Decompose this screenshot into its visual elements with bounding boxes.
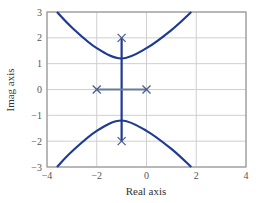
x-tick: −2 [91,170,102,181]
y-axis-label: Imag axis [4,68,16,111]
x-tick: 2 [194,170,199,181]
x-tick-labels: −4−2024 [42,170,249,181]
y-tick: 0 [37,84,42,95]
y-tick: −1 [31,110,42,121]
y-tick: −2 [31,136,42,147]
x-tick: 4 [244,170,249,181]
y-tick-labels: 3210−1−2−3 [31,7,42,173]
y-tick: 3 [37,7,42,18]
y-tick: −3 [31,162,42,173]
x-tick: 0 [144,170,149,181]
y-tick: 1 [37,58,42,69]
x-tick: −4 [42,170,53,181]
y-tick: 2 [37,32,42,43]
x-axis-label: Real axis [126,185,167,197]
root-locus-chart: −4−2024 3210−1−2−3 Real axis Imag axis [0,0,258,203]
